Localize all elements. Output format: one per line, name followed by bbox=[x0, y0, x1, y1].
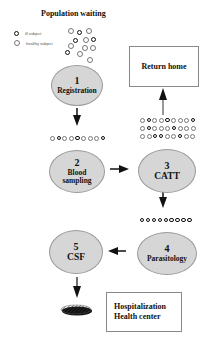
healthy-subject-icon bbox=[140, 134, 145, 139]
step-catt: 3 CATT bbox=[138, 149, 196, 193]
healthy-subject-icon bbox=[159, 118, 164, 123]
arrow-left-icon bbox=[108, 247, 126, 255]
healthy-subject-icon bbox=[159, 126, 164, 131]
arrow-down-icon bbox=[73, 108, 81, 126]
healthy-subject-icon bbox=[178, 118, 183, 123]
ill-subject-icon bbox=[75, 136, 79, 140]
healthy-subject-icon bbox=[152, 118, 157, 123]
arrow-down-icon bbox=[73, 277, 81, 298]
ill-subject-icon bbox=[178, 134, 182, 138]
step-label: CSF bbox=[67, 252, 85, 263]
ill-subject-icon bbox=[146, 218, 150, 222]
healthy-subject-icon bbox=[140, 126, 145, 131]
queue-after-catt-row-1 bbox=[140, 118, 195, 123]
ill-subject-icon bbox=[140, 218, 144, 222]
healthy-subject-icon bbox=[152, 126, 157, 131]
step-label: Blood sampling bbox=[59, 169, 95, 186]
healthy-subject-icon bbox=[147, 134, 152, 139]
healthy-subject-icon bbox=[165, 126, 170, 131]
healthy-subject-icon bbox=[88, 136, 93, 141]
queue-after-catt-row-2 bbox=[140, 126, 196, 131]
healthy-subject-icon bbox=[184, 126, 189, 131]
ill-subject-icon bbox=[175, 218, 179, 222]
step-parasitology: 4 Parasitology bbox=[137, 232, 197, 275]
step-csf: 5 CSF bbox=[49, 230, 103, 274]
step-number: 5 bbox=[74, 241, 79, 253]
healthy-subject-icon bbox=[178, 126, 183, 131]
step-label: Parasitology bbox=[147, 255, 187, 264]
ill-subject-icon bbox=[147, 118, 151, 122]
ill-subject-icon bbox=[159, 134, 163, 138]
healthy-subject-icon bbox=[62, 136, 67, 141]
arrow-up-icon bbox=[159, 88, 167, 115]
healthy-subject-icon bbox=[190, 134, 195, 139]
ill-subject-icon bbox=[147, 126, 151, 130]
healthy-subject-icon bbox=[165, 134, 170, 139]
ill-subject-icon bbox=[181, 218, 185, 222]
ill-subject-icon bbox=[164, 218, 168, 222]
step-blood-sampling: 2 Blood sampling bbox=[49, 150, 105, 193]
queue-after-catt-row-3 bbox=[140, 134, 195, 139]
ill-subject-icon bbox=[158, 218, 162, 222]
queue-after-parasitology bbox=[140, 218, 192, 222]
step-number: 2 bbox=[75, 157, 80, 169]
ill-subject-icon bbox=[187, 218, 191, 222]
healthy-subject-icon bbox=[94, 136, 99, 141]
hospitalization-box: Hospitalization Health center bbox=[106, 292, 182, 332]
ill-subject-icon bbox=[57, 136, 61, 140]
healthy-subject-icon bbox=[140, 118, 145, 123]
arrow-right-icon bbox=[110, 165, 129, 173]
ill-subject-icon bbox=[172, 126, 176, 130]
healthy-subject-icon bbox=[171, 134, 176, 139]
ill-subject-icon bbox=[165, 118, 169, 122]
health-center-label: Health center bbox=[114, 312, 160, 322]
ill-subject-icon bbox=[169, 218, 173, 222]
ill-subject-icon bbox=[153, 134, 157, 138]
healthy-subject-icon bbox=[50, 136, 55, 141]
healthy-subject-icon bbox=[184, 134, 189, 139]
ill-subject-icon bbox=[101, 136, 105, 140]
queue-after-registration bbox=[50, 136, 105, 141]
healthy-subject-icon bbox=[69, 136, 74, 141]
ill-subject-icon bbox=[191, 118, 195, 122]
hatched-disc-icon bbox=[61, 305, 92, 316]
healthy-subject-icon bbox=[184, 118, 189, 123]
step-number: 3 bbox=[165, 160, 170, 172]
step-label: CATT bbox=[154, 171, 180, 182]
ill-subject-icon bbox=[152, 218, 156, 222]
healthy-subject-icon bbox=[81, 136, 86, 141]
hospitalization-label: Hospitalization bbox=[114, 302, 166, 312]
healthy-subject-icon bbox=[191, 126, 196, 131]
healthy-subject-icon bbox=[171, 118, 176, 123]
